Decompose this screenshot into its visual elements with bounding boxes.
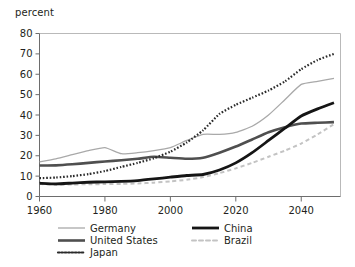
x-tick-label: 1980 bbox=[92, 205, 117, 216]
y-tick-label: 0 bbox=[26, 191, 32, 202]
legend-label: Japan bbox=[89, 247, 118, 258]
y-tick-label: 30 bbox=[20, 130, 33, 141]
series-line-united-states bbox=[40, 122, 334, 165]
legend-label: United States bbox=[90, 235, 158, 246]
legend-label: China bbox=[224, 223, 253, 234]
plot-frame bbox=[40, 34, 341, 197]
plot-area: 0102030405060708019601980200020202040Ger… bbox=[0, 0, 355, 267]
chart-svg: 0102030405060708019601980200020202040Ger… bbox=[0, 0, 355, 267]
legend-item-brazil[interactable]: Brazil bbox=[192, 235, 252, 246]
y-tick-label: 40 bbox=[20, 110, 33, 121]
y-tick-label: 70 bbox=[20, 48, 33, 59]
legend-label: Brazil bbox=[224, 235, 252, 246]
x-tick-label: 2040 bbox=[289, 205, 314, 216]
legend-item-china[interactable]: China bbox=[192, 223, 253, 234]
legend-item-japan[interactable]: Japan bbox=[58, 247, 118, 258]
y-tick-label: 60 bbox=[20, 69, 33, 80]
legend-label: Germany bbox=[90, 223, 136, 234]
legend-item-united-states[interactable]: United States bbox=[58, 235, 158, 246]
y-tick-label: 10 bbox=[20, 171, 33, 182]
y-tick-label: 80 bbox=[20, 28, 33, 39]
x-tick-label: 2020 bbox=[223, 205, 248, 216]
chart-container: percent 01020304050607080196019802000202… bbox=[0, 0, 355, 267]
x-tick-label: 1960 bbox=[27, 205, 52, 216]
legend-item-germany[interactable]: Germany bbox=[58, 223, 136, 234]
y-tick-label: 20 bbox=[20, 150, 33, 161]
x-tick-label: 2000 bbox=[158, 205, 183, 216]
y-tick-label: 50 bbox=[20, 89, 33, 100]
